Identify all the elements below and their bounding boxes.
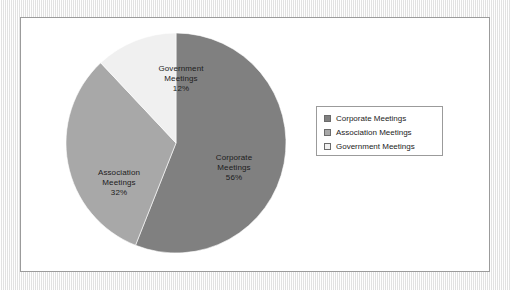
legend-item-government-meetings[interactable]: Government Meetings [324, 140, 435, 153]
pie-label-association-meetings: Association Meetings 32% [83, 168, 155, 198]
legend-item-association-meetings[interactable]: Association Meetings [324, 126, 435, 139]
pie-label-government-line1: Government [144, 64, 218, 74]
legend-swatch-icon-corporate [324, 115, 331, 122]
pie-label-corporate-meetings: Corporate Meetings 56% [199, 153, 269, 183]
legend-swatch-icon-government [324, 143, 331, 150]
chart-legend: Corporate Meetings Association Meetings … [316, 106, 443, 156]
pie-label-association-line2: Meetings [83, 178, 155, 188]
pie-label-corporate-value: 56% [199, 173, 269, 183]
pie-chart: Corporate Meetings 56% Association Meeti… [66, 33, 286, 253]
legend-label-government: Government Meetings [336, 142, 415, 151]
pie-label-government-value: 12% [144, 84, 218, 94]
pie-label-government-line2: Meetings [144, 74, 218, 84]
pie-label-association-line1: Association [83, 168, 155, 178]
chart-frame: Corporate Meetings 56% Association Meeti… [20, 17, 490, 272]
pie-label-corporate-line2: Meetings [199, 163, 269, 173]
legend-label-corporate: Corporate Meetings [336, 114, 406, 123]
legend-label-association: Association Meetings [336, 128, 412, 137]
pie-chart-plot-area: Corporate Meetings 56% Association Meeti… [21, 18, 491, 273]
legend-swatch-icon-association [324, 129, 331, 136]
legend-item-corporate-meetings[interactable]: Corporate Meetings [324, 112, 435, 125]
pie-label-government-meetings: Government Meetings 12% [144, 64, 218, 94]
pie-label-corporate-line1: Corporate [199, 153, 269, 163]
pie-label-association-value: 32% [83, 188, 155, 198]
